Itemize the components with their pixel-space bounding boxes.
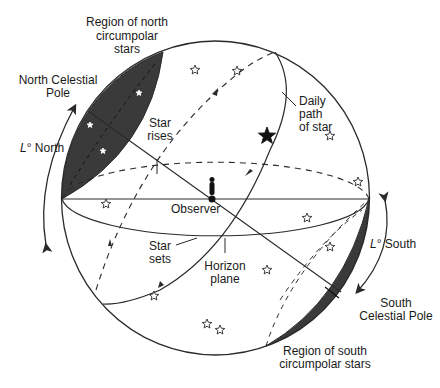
label-line: sets xyxy=(149,252,171,266)
daily-path-leader xyxy=(282,92,296,106)
label-line: of star xyxy=(299,120,332,134)
label-line: rises xyxy=(147,129,172,143)
label-line: Horizon xyxy=(204,259,245,273)
observer-figure xyxy=(209,177,216,203)
north-region-label: Region of north circumpolar stars xyxy=(86,15,168,56)
label-line: Region of south xyxy=(283,344,367,358)
label-line: Star xyxy=(149,239,171,253)
label-line: Daily xyxy=(299,94,326,108)
label-line: Region of north xyxy=(86,15,168,29)
featured-star-icon xyxy=(258,127,275,143)
lat-north-label: L° North xyxy=(20,141,64,155)
label-line: plane xyxy=(210,272,240,286)
celestial-sphere-diagram: Region of north circumpolar stars North … xyxy=(0,0,440,388)
star-sets-label: Star sets xyxy=(149,239,171,266)
star-icon xyxy=(101,199,111,208)
south-circumpolar-region xyxy=(266,199,369,346)
south-region-label: Region of south circumpolar stars xyxy=(279,344,370,371)
observer-label: Observer xyxy=(171,202,220,216)
label-line: South xyxy=(380,296,411,310)
path-arrow-right xyxy=(245,169,253,176)
horizon-back-arc xyxy=(62,162,369,199)
star-icon xyxy=(353,177,363,186)
star-icon xyxy=(202,319,212,328)
star-icon xyxy=(325,242,335,251)
dashed-circle-south xyxy=(266,199,369,346)
north-pole-label: North Celestial Pole xyxy=(19,73,98,100)
label-line: stars xyxy=(114,42,140,56)
star-icon xyxy=(215,325,225,334)
south-pole-label: South Celestial Pole xyxy=(359,296,433,323)
label-line: path xyxy=(299,107,322,121)
label-line: Celestial Pole xyxy=(359,309,433,323)
label-line: Star xyxy=(149,116,171,130)
path-arrow-upper xyxy=(212,88,218,96)
star-icon xyxy=(262,265,272,274)
star-sets-leader xyxy=(176,238,197,245)
star-icon xyxy=(190,65,200,74)
star-icon xyxy=(302,213,312,222)
label-line: North Celestial xyxy=(19,73,98,87)
star-icon xyxy=(149,291,159,300)
path-arrow-left xyxy=(108,239,112,246)
label-line: circumpolar stars xyxy=(279,357,370,371)
star-icon xyxy=(258,127,275,143)
star-rises-label: Star rises xyxy=(147,116,172,143)
daily-path-label: Daily path of star xyxy=(299,94,332,134)
star-icon xyxy=(232,66,242,75)
horizon-plane-label: Horizon plane xyxy=(204,259,245,286)
lat-south-label: L° South xyxy=(370,237,416,251)
path-arrow-lower xyxy=(158,281,164,288)
label-line: circumpolar xyxy=(96,29,158,43)
label-line: Pole xyxy=(46,86,70,100)
